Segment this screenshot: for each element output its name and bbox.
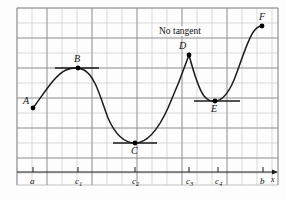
x-tick-label-c2: c2	[132, 177, 139, 186]
tick-subscript: 2	[136, 180, 139, 187]
tick-subscript: 1	[79, 180, 82, 187]
point-label-b: B	[74, 54, 80, 64]
x-tick-label-c3: c3	[186, 177, 193, 186]
x-axis-label: x	[271, 175, 275, 184]
figure-border	[17, 8, 278, 185]
grid-lines	[17, 8, 278, 185]
point-label-a: A	[23, 96, 29, 106]
point-b	[76, 66, 81, 71]
x-axis	[17, 167, 278, 175]
point-label-d: D	[179, 41, 186, 51]
x-tick-label-a: a	[30, 177, 35, 186]
marked-points	[31, 24, 265, 146]
function-curve	[33, 26, 262, 143]
point-a	[31, 106, 36, 111]
point-d	[187, 53, 192, 58]
plot-canvas	[0, 0, 286, 200]
x-tick-label-c4: c4	[215, 177, 222, 186]
tangent-lines-figure: ABCDEFac1c2c3c4b No tangent x	[0, 0, 286, 200]
point-label-e: E	[211, 104, 217, 114]
no-tangent-annotation: No tangent	[158, 26, 202, 36]
tick-subscript: 3	[190, 180, 193, 187]
tick-subscript: 4	[219, 180, 222, 187]
point-f	[260, 24, 265, 29]
x-tick-label-c1: c1	[75, 177, 82, 186]
point-label-f: F	[259, 12, 265, 22]
point-label-c: C	[131, 146, 138, 156]
x-tick-label-b: b	[260, 177, 265, 186]
